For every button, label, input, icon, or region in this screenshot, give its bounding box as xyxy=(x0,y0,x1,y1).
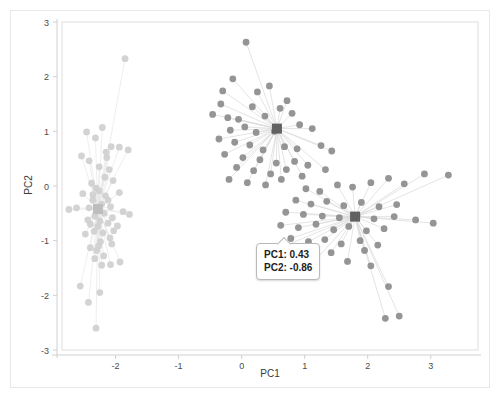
data-point[interactable] xyxy=(363,227,370,234)
data-point[interactable] xyxy=(92,134,99,141)
data-point[interactable] xyxy=(125,147,132,154)
data-point[interactable] xyxy=(262,113,269,120)
data-point[interactable] xyxy=(96,163,103,170)
data-point[interactable] xyxy=(100,253,107,260)
data-point[interactable] xyxy=(323,198,330,205)
data-point[interactable] xyxy=(349,184,356,191)
data-point[interactable] xyxy=(73,204,80,211)
data-point[interactable] xyxy=(221,151,228,158)
data-point[interactable] xyxy=(445,172,452,179)
data-point[interactable] xyxy=(93,247,100,254)
data-point[interactable] xyxy=(103,149,110,156)
data-point[interactable] xyxy=(340,202,347,209)
data-point[interactable] xyxy=(93,325,100,332)
data-point[interactable] xyxy=(328,148,335,155)
data-point[interactable] xyxy=(273,160,280,167)
data-point[interactable] xyxy=(257,156,264,163)
data-point[interactable] xyxy=(316,188,323,195)
data-point[interactable] xyxy=(209,111,216,118)
data-point[interactable] xyxy=(116,189,123,196)
data-point[interactable] xyxy=(110,177,117,184)
data-point[interactable] xyxy=(120,208,127,215)
data-point[interactable] xyxy=(96,289,103,296)
data-point[interactable] xyxy=(96,188,103,195)
data-point[interactable] xyxy=(89,191,96,198)
data-point[interactable] xyxy=(376,203,383,210)
data-point[interactable] xyxy=(385,283,392,290)
data-point[interactable] xyxy=(86,204,93,211)
data-point[interactable] xyxy=(217,101,224,108)
data-point[interactable] xyxy=(254,89,261,96)
data-point[interactable] xyxy=(266,83,273,90)
data-point[interactable] xyxy=(294,145,301,152)
data-point[interactable] xyxy=(100,230,107,237)
pca-scatter-chart[interactable]: -2-10123 3210-1-2-3 PC1 PC2 xyxy=(0,0,502,400)
data-point[interactable] xyxy=(381,225,388,232)
data-point[interactable] xyxy=(99,124,106,131)
data-point[interactable] xyxy=(116,144,123,151)
data-point[interactable] xyxy=(289,110,296,117)
data-point[interactable] xyxy=(105,220,112,227)
data-point[interactable] xyxy=(122,55,129,62)
data-point[interactable] xyxy=(231,139,238,146)
centroid-marker[interactable] xyxy=(272,124,282,134)
data-point[interactable] xyxy=(91,228,98,235)
data-point[interactable] xyxy=(86,157,93,164)
data-point[interactable] xyxy=(358,199,365,206)
data-point[interactable] xyxy=(277,222,284,229)
data-point[interactable] xyxy=(277,105,284,112)
centroid-marker[interactable] xyxy=(93,204,103,214)
data-point[interactable] xyxy=(334,182,341,189)
data-point[interactable] xyxy=(107,235,114,242)
data-point[interactable] xyxy=(282,209,289,216)
data-point[interactable] xyxy=(101,174,108,181)
data-point[interactable] xyxy=(313,221,320,228)
centroid-marker[interactable] xyxy=(350,212,360,222)
data-point[interactable] xyxy=(295,224,302,231)
data-point[interactable] xyxy=(371,215,378,222)
data-point[interactable] xyxy=(393,201,400,208)
data-point[interactable] xyxy=(107,203,114,210)
data-point[interactable] xyxy=(117,259,124,266)
data-point[interactable] xyxy=(126,211,133,218)
data-point[interactable] xyxy=(82,231,89,238)
data-point[interactable] xyxy=(361,247,368,254)
data-points[interactable] xyxy=(66,39,452,332)
data-point[interactable] xyxy=(249,103,256,110)
data-point[interactable] xyxy=(322,166,329,173)
data-point[interactable] xyxy=(244,179,251,186)
data-point[interactable] xyxy=(216,136,223,143)
data-point[interactable] xyxy=(321,236,328,243)
data-point[interactable] xyxy=(224,114,231,121)
data-point[interactable] xyxy=(412,216,419,223)
data-point[interactable] xyxy=(283,166,290,173)
data-point[interactable] xyxy=(300,211,307,218)
data-point[interactable] xyxy=(367,262,374,269)
data-point[interactable] xyxy=(292,197,299,204)
data-point[interactable] xyxy=(278,176,285,183)
data-point[interactable] xyxy=(106,166,113,173)
data-point[interactable] xyxy=(85,299,92,306)
data-point[interactable] xyxy=(309,125,316,132)
data-point[interactable] xyxy=(345,223,352,230)
data-point[interactable] xyxy=(235,116,242,123)
data-point[interactable] xyxy=(227,127,234,134)
data-point[interactable] xyxy=(91,255,98,262)
data-point[interactable] xyxy=(79,190,86,197)
data-point[interactable] xyxy=(260,147,267,154)
data-point[interactable] xyxy=(401,180,408,187)
data-point[interactable] xyxy=(250,167,257,174)
data-point[interactable] xyxy=(105,197,112,204)
data-point[interactable] xyxy=(108,143,115,150)
data-point[interactable] xyxy=(239,154,246,161)
data-point[interactable] xyxy=(308,201,315,208)
data-point[interactable] xyxy=(246,142,253,149)
data-point[interactable] xyxy=(318,142,325,149)
data-point[interactable] xyxy=(391,213,398,220)
data-point[interactable] xyxy=(267,171,274,178)
data-point[interactable] xyxy=(108,241,115,248)
data-point[interactable] xyxy=(284,97,291,104)
data-point[interactable] xyxy=(77,283,84,290)
data-point[interactable] xyxy=(336,214,343,221)
data-point[interactable] xyxy=(262,182,269,189)
